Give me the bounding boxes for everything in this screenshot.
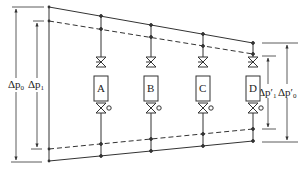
unit-label-a: A bbox=[97, 82, 105, 94]
label-dp1-right: Δp′1 bbox=[258, 86, 277, 100]
unit-label-b: B bbox=[147, 82, 154, 94]
unit-label-c: C bbox=[199, 82, 206, 94]
label-dp0-right: Δp′0 bbox=[278, 86, 297, 100]
label-dp0-left: Δp0 bbox=[8, 78, 25, 92]
pressure-diagram: Δp0 Δp1 Δp′1 Δp′0 A bbox=[0, 0, 301, 180]
unit-label-d: D bbox=[249, 82, 257, 94]
label-dp1-left: Δp1 bbox=[28, 78, 45, 92]
